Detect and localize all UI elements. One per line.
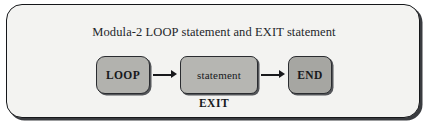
node-loop: LOOP xyxy=(96,56,150,94)
node-loop-label: LOOP xyxy=(106,69,140,81)
figure-modula2-loop-exit: Modula-2 LOOP statement and EXIT stateme… xyxy=(0,0,430,127)
node-end-label: END xyxy=(297,69,322,81)
arrow-loop-to-statement-icon xyxy=(150,69,180,81)
arrow-head xyxy=(279,70,285,78)
node-statement-label: statement xyxy=(197,69,241,81)
diagram-title: Modula-2 LOOP statement and EXIT stateme… xyxy=(7,25,421,40)
exit-caption: EXIT xyxy=(7,97,421,109)
arrow-shaft xyxy=(261,74,281,76)
flow-row: LOOP statement END xyxy=(7,54,421,96)
arrow-statement-to-end-icon xyxy=(258,69,288,81)
node-statement: statement xyxy=(180,56,258,94)
diagram-panel: Modula-2 LOOP statement and EXIT stateme… xyxy=(6,4,420,118)
node-end: END xyxy=(288,56,332,94)
arrow-head xyxy=(171,70,177,78)
arrow-shaft xyxy=(153,74,173,76)
